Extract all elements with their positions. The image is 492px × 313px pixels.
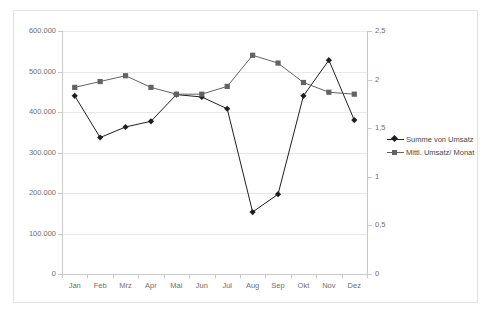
- x-axis-tick: [291, 274, 292, 278]
- x-axis-tick: [215, 274, 216, 278]
- gridline: [62, 153, 367, 154]
- x-axis-tick: [342, 274, 343, 278]
- left-axis-tick-label: 500.000: [29, 68, 56, 76]
- x-axis-tick: [189, 274, 190, 278]
- right-axis-tick-label: 2: [375, 76, 379, 84]
- x-axis-tick-label: Aug: [246, 282, 259, 290]
- x-axis-tick-label: Jun: [196, 282, 208, 290]
- x-axis-tick-label: Mai: [170, 282, 182, 290]
- chart-legend: Summe von Umsatz Mittl. Umsatz/ Monat: [387, 134, 479, 160]
- left-axis-tick: [58, 31, 62, 32]
- plot-area: [76, 42, 381, 285]
- left-axis-tick-label: 600.000: [29, 27, 56, 35]
- x-axis-tick: [113, 274, 114, 278]
- x-axis-tick-label: Jul: [222, 282, 232, 290]
- x-axis-tick-label: Jan: [69, 282, 81, 290]
- x-axis-tick: [62, 274, 63, 278]
- left-axis-tick: [58, 153, 62, 154]
- right-axis-tick: [368, 225, 372, 226]
- gridline: [62, 234, 367, 235]
- gridline: [62, 31, 367, 32]
- x-axis-tick: [164, 274, 165, 278]
- right-axis-tick-label: 0,5: [375, 221, 385, 229]
- x-axis-tick: [367, 274, 368, 278]
- legend-item-label: Summe von Umsatz: [404, 136, 474, 144]
- x-axis-tick-label: Sep: [271, 282, 284, 290]
- right-axis-tick: [368, 80, 372, 81]
- x-axis-tick-label: Mrz: [119, 282, 132, 290]
- right-axis-tick-label: 1,5: [375, 124, 385, 132]
- right-axis-tick-label: 1: [375, 173, 379, 181]
- left-axis-tick-label: 100.000: [29, 230, 56, 238]
- left-axis-tick-label: 0: [52, 270, 56, 278]
- gridline: [62, 72, 367, 73]
- x-axis-tick-label: Okt: [298, 282, 310, 290]
- square-marker-icon: [387, 147, 404, 158]
- x-axis-tick: [240, 274, 241, 278]
- left-axis-tick: [58, 193, 62, 194]
- right-axis-line: [367, 31, 368, 274]
- diamond-marker-icon: [387, 134, 404, 145]
- left-axis-tick-label: 300.000: [29, 149, 56, 157]
- right-axis-tick: [368, 31, 372, 32]
- left-axis-tick: [58, 72, 62, 73]
- right-axis-tick: [368, 128, 372, 129]
- x-axis-tick-label: Feb: [94, 282, 107, 290]
- right-axis-tick-label: 2,5: [375, 27, 385, 35]
- right-axis-tick: [368, 177, 372, 178]
- x-axis-tick: [316, 274, 317, 278]
- x-axis-tick-label: Apr: [145, 282, 157, 290]
- legend-item-summe-von-umsatz[interactable]: Summe von Umsatz: [387, 134, 479, 145]
- x-axis-tick-label: Dez: [348, 282, 361, 290]
- right-axis-tick: [368, 274, 372, 275]
- gridline: [62, 193, 367, 194]
- left-axis-tick: [58, 234, 62, 235]
- left-axis-tick-label: 400.000: [29, 108, 56, 116]
- left-axis-tick: [58, 112, 62, 113]
- x-axis-tick: [87, 274, 88, 278]
- right-axis-tick-label: 0: [375, 270, 379, 278]
- left-axis-tick-label: 200.000: [29, 189, 56, 197]
- x-axis-tick-label: Nov: [322, 282, 335, 290]
- legend-item-label: Mittl. Umsatz/ Monat: [404, 149, 474, 157]
- left-axis-line: [62, 31, 63, 274]
- legend-item-mittl-umsatz-monat[interactable]: Mittl. Umsatz/ Monat: [387, 147, 479, 158]
- x-axis-tick: [138, 274, 139, 278]
- gridline: [62, 112, 367, 113]
- x-axis-tick: [265, 274, 266, 278]
